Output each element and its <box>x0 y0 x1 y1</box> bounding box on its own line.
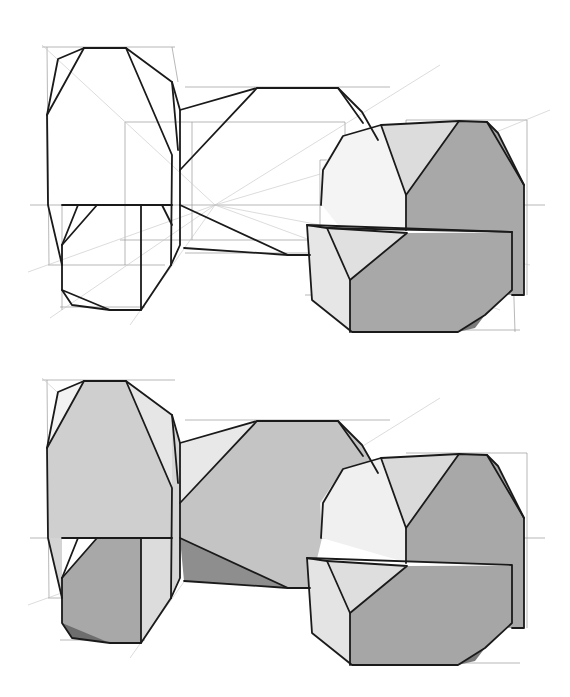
line-study-drawing <box>0 0 570 340</box>
tonal-study-drawing <box>0 333 570 673</box>
perspective-sketch-canvas <box>0 0 570 697</box>
left-block <box>47 381 180 643</box>
